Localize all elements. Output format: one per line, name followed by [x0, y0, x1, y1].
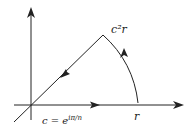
label-c2r: c²r [111, 23, 128, 36]
return-segment-arrow-icon [60, 69, 70, 78]
circular-arc [103, 35, 138, 103]
label-c-definition: c = eiπ/n [42, 114, 82, 126]
return-segment [14, 35, 103, 122]
arc-direction-arrow-icon [120, 48, 128, 58]
contour-diagram: c²r r c = eiπ/n [0, 0, 192, 134]
label-r: r [134, 110, 140, 123]
